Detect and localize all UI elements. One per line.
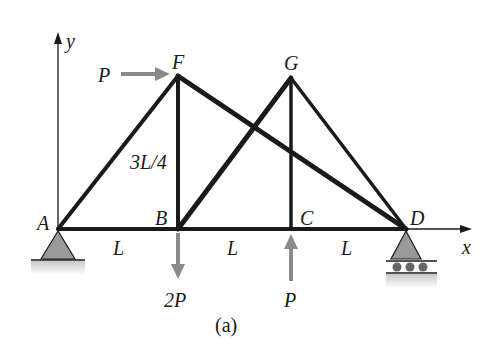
arrow-down-icon (171, 264, 185, 279)
arrow-up-icon (284, 234, 298, 249)
dimension-span-CD: L (341, 238, 352, 258)
member-BG (178, 78, 291, 229)
arrow-right-icon (155, 67, 170, 81)
truss-members (58, 76, 406, 229)
roller-support-D (386, 231, 437, 288)
truss-diagram (0, 0, 501, 349)
figure-caption: (a) (215, 315, 237, 335)
joint-label-C: C (300, 208, 313, 228)
x-axis-arrowhead-icon (460, 225, 472, 233)
pin-support-A (31, 231, 85, 275)
joint-label-B: B (155, 208, 167, 228)
dimension-span-BC: L (227, 238, 238, 258)
joint-label-D: D (410, 208, 424, 228)
load-P-at-C (284, 234, 298, 281)
load-label-P-horizontal: P (98, 65, 110, 85)
load-label-P-vertical: P (284, 290, 296, 310)
y-axis (54, 32, 62, 229)
x-axis-label: x (462, 237, 471, 257)
load-2P-at-B (171, 233, 185, 279)
dimension-height-BF: 3L/4 (130, 152, 167, 172)
joint-label-A: A (37, 213, 49, 233)
y-axis-arrowhead-icon (54, 32, 62, 44)
joint-label-G: G (284, 53, 298, 73)
load-label-2P: 2P (164, 290, 186, 310)
y-axis-label: y (66, 31, 75, 51)
load-P-at-F (121, 67, 170, 81)
truss-figure: y x A B C D F G L L L 3L/4 P 2P P (a) (0, 0, 501, 349)
dimension-span-AB: L (113, 238, 124, 258)
joint-label-F: F (172, 52, 184, 72)
